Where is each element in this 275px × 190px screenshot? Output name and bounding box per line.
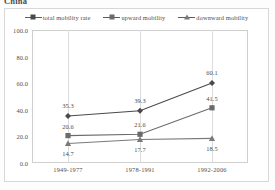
plot-area: 35.339.360.120.621.641.514.717.718.5	[32, 30, 248, 163]
legend-item-total-mobility-rate: total mobility rate	[25, 13, 91, 21]
y-tick-label: 80.0	[16, 53, 28, 60]
data-point-label: 17.7	[134, 146, 146, 153]
data-point-label: 18.5	[206, 145, 218, 152]
legend-label: downward mobility	[196, 14, 248, 21]
legend-label: upward mobility	[121, 14, 165, 21]
y-axis: 100.0 80.0 60.0 40.0 20.0 0.0	[0, 30, 30, 163]
x-tick-label: 1992-2006	[197, 166, 227, 173]
data-point-label: 14.7	[62, 150, 74, 157]
y-tick-label: 100.0	[13, 27, 28, 34]
data-point-label: 41.5	[206, 94, 218, 101]
data-point-marker	[209, 80, 215, 86]
chart-figure: China total mobility rate upward mobilit…	[0, 0, 275, 190]
data-point-label: 60.1	[206, 69, 218, 76]
data-point-label: 39.3	[134, 96, 146, 103]
legend-item-downward-mobility: downward mobility	[178, 13, 248, 21]
diamond-marker-icon	[25, 13, 42, 21]
data-point-marker	[209, 105, 214, 110]
y-tick-label: 0.0	[20, 160, 28, 167]
data-point-marker	[137, 132, 142, 137]
chart-legend: total mobility rate upward mobility down…	[4, 9, 269, 25]
data-point-label: 35.3	[62, 102, 74, 109]
x-tick-label: 1978-1991	[125, 166, 155, 173]
y-tick-label: 60.0	[16, 80, 28, 87]
x-axis: 1949-1977 1978-1991 1992-2006	[32, 166, 248, 178]
data-point-label: 21.6	[134, 121, 146, 128]
data-point-marker	[137, 108, 143, 114]
square-marker-icon	[103, 13, 120, 21]
triangle-marker-icon	[178, 13, 195, 21]
y-tick-label: 40.0	[16, 106, 28, 113]
y-tick-label: 20.0	[16, 133, 28, 140]
data-point-marker	[65, 133, 70, 138]
data-point-label: 20.6	[62, 122, 74, 129]
page-title: China	[4, 0, 27, 6]
legend-item-upward-mobility: upward mobility	[103, 13, 165, 21]
x-tick-label: 1949-1977	[53, 166, 83, 173]
data-point-marker	[65, 113, 71, 119]
legend-label: total mobility rate	[43, 14, 91, 21]
